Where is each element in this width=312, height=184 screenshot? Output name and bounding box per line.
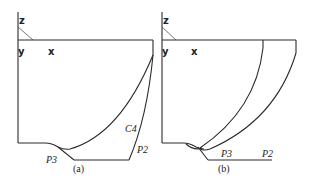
y-axis-label: y — [18, 46, 25, 57]
p3-boundary — [18, 143, 129, 160]
lens-curve — [186, 144, 202, 149]
p3-label: P3 — [220, 148, 232, 159]
diagonal-line — [18, 27, 33, 40]
outer-curve — [200, 53, 296, 150]
inner-curve — [200, 40, 263, 148]
c4-label: C4 — [125, 123, 137, 134]
z-axis-label: z — [19, 15, 25, 26]
diagonal-line — [162, 27, 176, 40]
z-axis-label: z — [163, 15, 169, 26]
panel-a: z y x C4 P2 P3 (a) — [18, 12, 153, 175]
panel-b: z y x P3 P2 (b) — [162, 12, 296, 175]
y-axis-label: y — [162, 46, 169, 57]
diagram: z y x C4 P2 P3 (a) z y x P3 P2 ( — [0, 0, 312, 184]
p2-label: P2 — [261, 148, 273, 159]
p3-label: P3 — [45, 154, 57, 165]
p2-label: P2 — [136, 144, 148, 155]
c4-curve — [58, 55, 153, 149]
caption-b: (b) — [218, 163, 230, 175]
x-axis-label: x — [48, 46, 55, 57]
p3-boundary — [162, 143, 204, 149]
x-axis-label: x — [191, 46, 198, 57]
caption-a: (a) — [73, 163, 84, 175]
